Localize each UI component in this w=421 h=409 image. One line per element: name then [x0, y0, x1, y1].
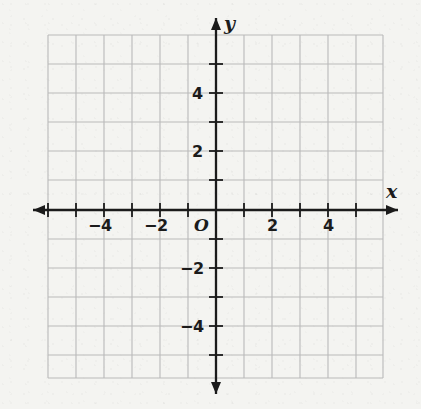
x-tick-label-pos4: 4	[323, 218, 334, 234]
origin-label: O	[194, 217, 209, 234]
x-tick-label-pos2: 2	[267, 218, 278, 234]
y-axis-name-label: y	[224, 14, 235, 33]
x-tick-label-neg4: −4	[88, 218, 112, 234]
x-axis-name-label: x	[386, 182, 397, 201]
y-axis-arrow-up	[211, 18, 221, 30]
x-axis-arrow-left	[33, 205, 45, 215]
y-tick-label-neg4: −4	[180, 319, 204, 335]
axes	[33, 18, 398, 394]
x-axis-arrow-right	[386, 205, 398, 215]
y-tick-label-pos2: 2	[192, 144, 203, 160]
x-tick-label-neg2: −2	[144, 218, 168, 234]
y-axis-arrow-down	[211, 382, 221, 394]
y-tick-label-pos4: 4	[192, 86, 203, 102]
y-tick-label-neg2: −2	[180, 261, 204, 277]
coordinate-plane-canvas	[0, 0, 421, 409]
coordinate-plane-figure: −4 −2 2 4 4 2 −2 −4 O y x	[0, 0, 421, 409]
